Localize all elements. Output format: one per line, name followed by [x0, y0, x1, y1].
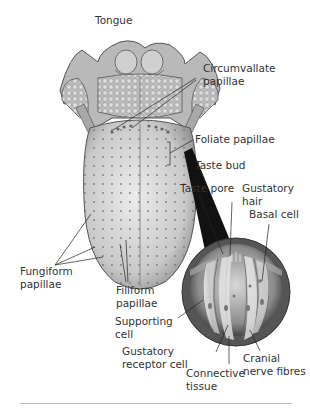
label-circumvallate: Circumvallate papillae [203, 62, 276, 87]
bottom-divider [20, 403, 292, 404]
label-gustatory-hair: Gustatory hair [242, 182, 294, 207]
label-fungiform: Fungiform papillae [20, 265, 73, 290]
label-taste-pore: Taste pore [180, 182, 234, 195]
label-cranial-nerve: Cranial nerve fibres [243, 352, 306, 377]
label-supporting-cell: Supporting cell [115, 315, 173, 340]
label-filiform: Filiform papillae [116, 284, 157, 309]
label-gustatory-receptor: Gustatory receptor cell [122, 345, 188, 370]
label-connective-tissue: Connective tissue [186, 367, 245, 392]
label-taste-bud: Taste bud [195, 159, 245, 172]
taste-bud-magnified [182, 238, 290, 346]
figure-title: Tongue [95, 14, 133, 27]
label-basal-cell: Basal cell [249, 208, 299, 221]
label-foliate: Foliate papillae [195, 133, 275, 146]
tongue-body [84, 120, 197, 289]
